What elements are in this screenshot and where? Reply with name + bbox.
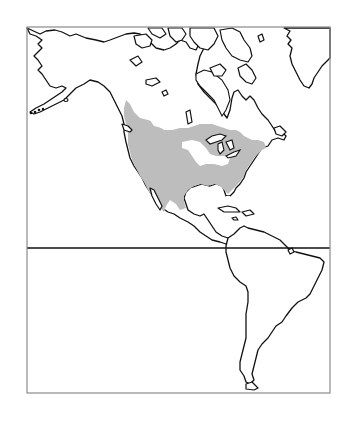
range-map	[0, 0, 339, 423]
tierra-del-fuego	[246, 382, 258, 390]
range-gap-florida	[226, 196, 232, 206]
greenland-landmass	[284, 28, 330, 88]
map-canvas	[0, 0, 339, 423]
caribbean-islands	[218, 206, 254, 220]
south-america-landmass	[226, 226, 324, 384]
marajo-island	[288, 248, 294, 254]
